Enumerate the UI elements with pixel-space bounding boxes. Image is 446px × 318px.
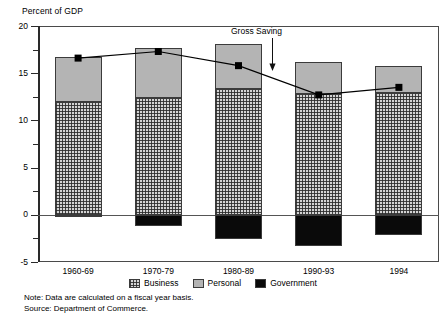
personal-gray-swatch (193, 279, 204, 288)
gross-saving-chart-figure: Percent of GDP -505101520 1960-691970-79… (0, 0, 446, 318)
bar-segment-business (295, 94, 342, 215)
bar-segment-personal (295, 62, 342, 94)
y-tick-15 (31, 73, 38, 74)
down-arrow-icon (268, 38, 277, 72)
bar-segment-business (135, 98, 182, 215)
x-tick-label-1970-79: 1970-79 (118, 266, 198, 276)
bar-1994 (375, 0, 422, 262)
y-tick-0 (31, 215, 38, 216)
source-line: Source: Department of Commerce. (24, 304, 193, 315)
y-minor-tick (33, 238, 38, 239)
y-minor-tick (33, 50, 38, 51)
bar-segment-business (55, 102, 102, 215)
y-tick-10 (31, 120, 38, 121)
x-tick-label-1980-89: 1980-89 (199, 266, 279, 276)
y-tick-label-20: 20 (2, 21, 28, 31)
y-tick-neg5 (31, 262, 38, 263)
x-tick-label-1990-93: 1990-93 (279, 266, 359, 276)
bar-segment-government (55, 215, 102, 217)
bar-segment-business (215, 89, 262, 215)
bar-1980-89 (215, 0, 262, 262)
bar-1990-93 (295, 0, 342, 262)
gross-saving-annotation-label: Gross Saving (231, 26, 282, 36)
y-tick-20 (31, 26, 38, 27)
y-tick-label-15: 15 (2, 68, 28, 78)
x-tick-label-1960-69: 1960-69 (38, 266, 118, 276)
business-checkered-swatch (129, 279, 140, 288)
note-line: Note: Data are calculated on a fiscal ye… (24, 293, 193, 304)
y-tick-label-5: 5 (2, 162, 28, 172)
x-tick-label-1994: 1994 (359, 266, 439, 276)
bar-segment-government (215, 215, 262, 240)
bar-segment-government (135, 215, 182, 226)
bar-segment-personal (215, 44, 262, 89)
government-black-swatch (255, 279, 266, 288)
y-tick-label-neg5: -5 (2, 257, 28, 267)
legend-label: Personal (208, 278, 242, 288)
bar-segment-personal (55, 57, 102, 101)
legend-label: Business (144, 278, 179, 288)
y-minor-tick (33, 144, 38, 145)
bar-segment-personal (375, 66, 422, 93)
bar-segment-personal (135, 48, 182, 98)
bar-segment-business (375, 93, 422, 215)
legend-item-government[interactable]: Government (255, 278, 317, 288)
y-minor-tick (33, 191, 38, 192)
y-tick-label-0: 0 (2, 209, 28, 219)
chart-notes: Note: Data are calculated on a fiscal ye… (24, 293, 193, 314)
chart-legend: BusinessPersonalGovernment (0, 278, 446, 288)
y-tick-5 (31, 168, 38, 169)
legend-label: Government (270, 278, 317, 288)
y-minor-tick (33, 97, 38, 98)
bar-segment-government (375, 215, 422, 235)
legend-item-business[interactable]: Business (129, 278, 179, 288)
legend-item-personal[interactable]: Personal (193, 278, 242, 288)
bar-1970-79 (135, 0, 182, 262)
bar-1960-69 (55, 0, 102, 262)
y-tick-label-10: 10 (2, 115, 28, 125)
bar-segment-government (295, 215, 342, 246)
y-axis-spine (38, 26, 40, 262)
